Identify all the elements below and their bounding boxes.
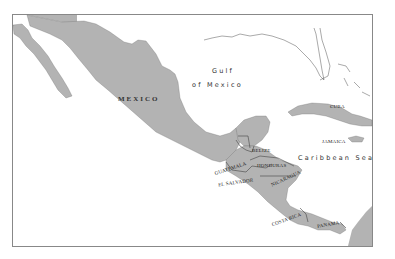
label-mexico: MEXICO [118,96,160,103]
label-jamaica: JAMAICA [322,139,346,144]
label-cuba: CUBA [330,104,345,109]
label-honduras: HONDURAS [257,163,286,168]
label-belize: BELIZE [252,148,270,153]
label-gulf-line1: Gulf [212,68,234,75]
label-caribbean-sea: Caribbean Sea [298,155,374,162]
label-gulf-line2: of Mexico [192,82,243,89]
